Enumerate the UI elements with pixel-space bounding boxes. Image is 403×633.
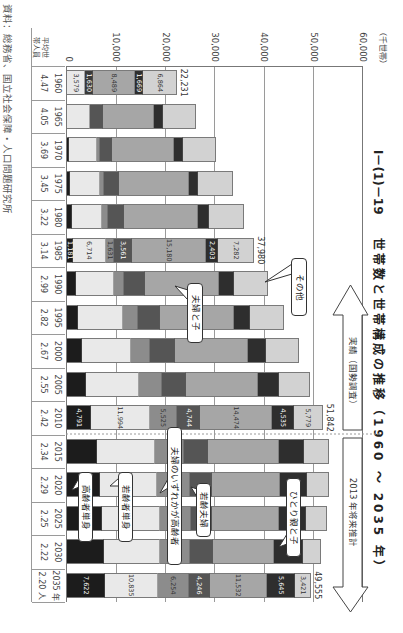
table-column-1975: 19753.45 <box>32 167 65 201</box>
table-column-1990: 19902.99 <box>32 267 65 301</box>
avg-household-size: 2.67 <box>39 335 48 368</box>
table-column-2025: 20252.25 <box>32 502 65 536</box>
table-column-2000: 20002.67 <box>32 334 65 368</box>
chart-page: Ⅰ－(1)－19 世帯数と世帯構成の推移（1960 ～ 2035 年） （千世帯… <box>0 0 403 633</box>
year-table: 19604.4719654.0519703.6919753.4519803.22… <box>0 0 403 633</box>
table-column-1980: 19803.22 <box>32 200 65 234</box>
table-column-1960: 19604.47 <box>32 66 65 100</box>
year-label: 1995 <box>53 302 62 335</box>
table-column-2030: 20302.22 <box>32 535 65 569</box>
year-label: 1985 <box>53 235 62 268</box>
year-label: 2015 <box>53 436 62 469</box>
avg-household-size: 2.25 <box>39 503 48 536</box>
avg-household-size: 3.45 <box>39 168 48 201</box>
table-column-1970: 19703.69 <box>32 133 65 167</box>
avg-household-size: 2.99 <box>39 268 48 301</box>
table-bottom-line <box>31 28 32 602</box>
year-label: 2030 <box>53 536 62 569</box>
avg-household-size: 3.22 <box>39 201 48 234</box>
avg-household-size: 2.34 <box>39 436 48 469</box>
avg-household-size: 3.69 <box>39 134 48 167</box>
table-column-1965: 19654.05 <box>32 100 65 134</box>
table-column-1985: 19853.14 <box>32 234 65 268</box>
year-label: 2005 <box>53 369 62 402</box>
table-column-1995: 19952.82 <box>32 301 65 335</box>
avg-household-size: 2.29 <box>39 469 48 502</box>
table-column-2035: 2035 年2.20 人 <box>32 569 65 603</box>
year-label: 1960 <box>53 67 62 100</box>
table-right-line <box>32 602 65 603</box>
year-label: 2000 <box>53 335 62 368</box>
year-label: 1975 <box>53 168 62 201</box>
year-label: 2010 <box>53 402 62 435</box>
year-label: 2020 <box>53 469 62 502</box>
year-label: 1990 <box>53 268 62 301</box>
source-note: 資料：総務省、国立社会保障・人口問題研究所 <box>1 4 15 214</box>
avg-household-size: 2.82 <box>39 302 48 335</box>
avg-household-size: 2.42 <box>39 402 48 435</box>
avg-household-size: 4.47 <box>39 67 48 100</box>
table-column-2010: 20102.42 <box>32 401 65 435</box>
year-label: 1970 <box>53 134 62 167</box>
avg-household-size: 2.22 <box>39 536 48 569</box>
year-label: 1965 <box>53 101 62 134</box>
table-column-2005: 20052.55 <box>32 368 65 402</box>
year-label: 1980 <box>53 201 62 234</box>
avg-household-size: 2.55 <box>39 369 48 402</box>
avg-household-size: 3.14 <box>39 235 48 268</box>
year-label: 2025 <box>53 503 62 536</box>
avg-household-size: 2.20 人 <box>37 570 48 603</box>
table-column-2020: 20202.29 <box>32 468 65 502</box>
year-label: 2035 年 <box>51 570 62 603</box>
avg-household-size: 4.05 <box>39 101 48 134</box>
table-column-2015: 20152.34 <box>32 435 65 469</box>
